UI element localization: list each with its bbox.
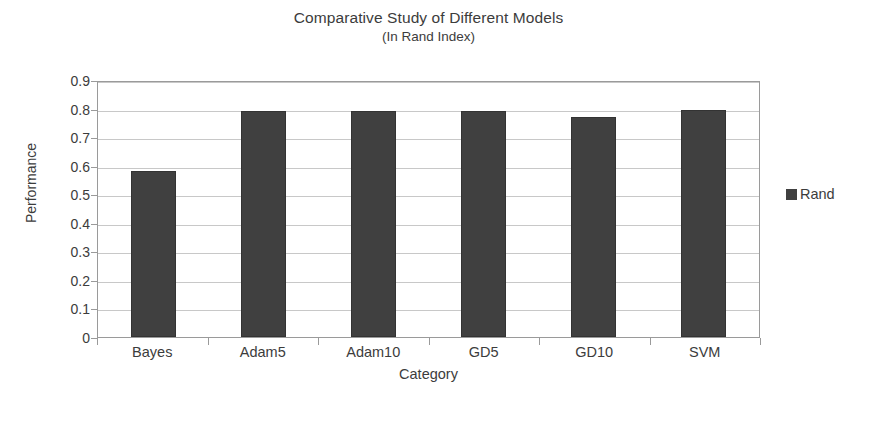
y-axis-tick-mark (91, 281, 97, 282)
y-axis-tick-label: 0.3 (71, 244, 90, 260)
y-axis-tick-label: 0.4 (71, 216, 90, 232)
chart-title: Comparative Study of Different Models (97, 8, 760, 28)
y-axis-tick-labels: 0.90.80.70.60.50.40.30.20.10 (52, 81, 90, 338)
bar-slot (318, 82, 428, 337)
bar-adam5[interactable] (241, 111, 286, 337)
bar-gd10[interactable] (571, 117, 616, 337)
x-axis-tick-label: Bayes (97, 344, 208, 360)
y-axis-tick-mark (91, 81, 97, 82)
y-axis-tick-mark (91, 309, 97, 310)
x-axis-tick-label: Adam10 (318, 344, 429, 360)
bar-svm[interactable] (681, 110, 726, 337)
y-axis-tick-mark (91, 167, 97, 168)
y-axis-tick-mark (91, 110, 97, 111)
bar-gd5[interactable] (461, 111, 506, 337)
y-axis-title: Performance (23, 123, 39, 243)
y-axis-tick-label: 0.8 (71, 102, 90, 118)
y-axis-tick-label: 0.1 (71, 301, 90, 317)
bar-slot (539, 82, 649, 337)
y-axis-tick-label: 0.2 (71, 273, 90, 289)
y-axis-tick-mark (91, 195, 97, 196)
y-axis-tick-label: 0.7 (71, 130, 90, 146)
plot-area (97, 81, 760, 338)
x-axis-tick-label: GD5 (429, 344, 540, 360)
x-axis-tick-label: SVM (650, 344, 761, 360)
chart-subtitle: (In Rand Index) (97, 28, 760, 46)
y-axis-tick-mark (91, 252, 97, 253)
chart-title-block: Comparative Study of Different Models (I… (97, 8, 760, 46)
x-axis-tick-label: GD10 (539, 344, 650, 360)
y-axis-tick-mark (91, 138, 97, 139)
bar-slot (429, 82, 539, 337)
bar-slot (98, 82, 208, 337)
y-axis-tick-label: 0.6 (71, 159, 90, 175)
chart-legend: Rand (786, 186, 835, 202)
y-axis-tick-label: 0 (82, 330, 90, 346)
x-axis-tick-mark (760, 338, 761, 345)
x-axis-tick-label: Adam5 (208, 344, 319, 360)
x-axis-title: Category (97, 366, 760, 382)
y-axis-tick-mark (91, 224, 97, 225)
legend-label-rand: Rand (800, 186, 835, 202)
bar-adam10[interactable] (351, 111, 396, 337)
bar-slot (208, 82, 318, 337)
legend-swatch-rand (786, 189, 797, 200)
bars-layer (98, 82, 759, 337)
y-axis-tick-label: 0.5 (71, 187, 90, 203)
bar-bayes[interactable] (131, 171, 176, 337)
x-axis-tick-labels: BayesAdam5Adam10GD5GD10SVM (97, 344, 760, 360)
y-axis-tick-label: 0.9 (71, 73, 90, 89)
bar-slot (649, 82, 759, 337)
bar-chart-figure: Comparative Study of Different Models (I… (0, 0, 877, 421)
